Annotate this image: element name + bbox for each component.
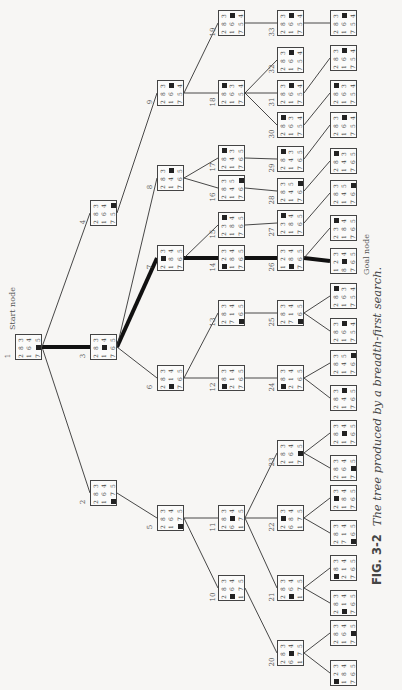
tile: 2 [220, 255, 228, 263]
tile: 3 [279, 82, 287, 90]
tile: 5 [237, 367, 245, 375]
tree-edge [304, 125, 330, 159]
tile: 7 [109, 352, 117, 360]
tile: 3 [279, 12, 287, 20]
tile: 7 [349, 301, 357, 309]
tile: 5 [237, 20, 245, 28]
puzzle-node: 28316754 [277, 10, 304, 36]
tile: 8 [332, 190, 340, 198]
tile: 4 [349, 82, 357, 90]
tile: 1 [167, 263, 175, 271]
tile: 2 [159, 523, 167, 531]
tile: 6 [296, 188, 304, 196]
tile: 7 [349, 678, 357, 686]
blank-tile [349, 182, 357, 190]
tile: 1 [237, 593, 245, 601]
tile: 7 [296, 650, 304, 658]
tile: 4 [287, 212, 295, 220]
tile: 5 [176, 90, 184, 98]
puzzle-node: 23184765 [277, 210, 304, 236]
tile: 7 [340, 538, 348, 546]
puzzle-node: 28316754 [218, 10, 245, 36]
puzzle-node: 28143765 [218, 145, 245, 171]
tile: 3 [279, 367, 287, 375]
blank-tile [228, 515, 236, 523]
tile: 6 [296, 310, 304, 318]
tile: 6 [287, 658, 295, 666]
tile: 4 [228, 247, 236, 255]
tile: 1 [340, 530, 348, 538]
tile: 8 [332, 600, 340, 608]
tile: 1 [228, 193, 236, 201]
node-number-label: 27 [268, 228, 276, 237]
tile: 3 [159, 367, 167, 375]
tile: 6 [340, 293, 348, 301]
tile: 1 [340, 638, 348, 646]
blank-tile [340, 387, 348, 395]
tile: 2 [92, 498, 100, 506]
tile: 7 [296, 28, 304, 36]
tile: 3 [220, 577, 228, 585]
puzzle-node: 23184765 [330, 660, 357, 686]
tile: 5 [349, 217, 357, 225]
node-number-label: 12 [209, 383, 217, 392]
tile: 3 [340, 285, 348, 293]
tile: 2 [279, 593, 287, 601]
node-number-label: 17 [209, 163, 217, 172]
tile: 3 [228, 147, 236, 155]
tile: 1 [287, 375, 295, 383]
blank-tile [340, 430, 348, 438]
tile: 4 [228, 214, 236, 222]
blank-tile [287, 82, 295, 90]
tile: 4 [287, 156, 295, 164]
tile: 8 [220, 310, 228, 318]
tile: 8 [287, 220, 295, 228]
tile: 6 [287, 585, 295, 593]
tile: 4 [340, 217, 348, 225]
tile: 2 [279, 130, 287, 138]
tree-edge [304, 498, 330, 518]
tree-edge [245, 158, 277, 159]
tile: 5 [228, 177, 236, 185]
tile: 8 [332, 55, 340, 63]
tile: 5 [296, 247, 304, 255]
node-number-label: 29 [268, 164, 276, 173]
tile: 7 [296, 65, 304, 73]
tile: 5 [349, 20, 357, 28]
tile: 5 [349, 622, 357, 630]
tile: 4 [167, 367, 175, 375]
tile: 3 [332, 114, 340, 122]
puzzle-node: 83214765 [277, 365, 304, 391]
tile: 2 [220, 193, 228, 201]
tile: 4 [340, 557, 348, 565]
puzzle-node: 28371465 [218, 300, 245, 326]
tile: 3 [220, 302, 228, 310]
tile: 4 [100, 336, 108, 344]
blank-tile [287, 650, 295, 658]
tile: 8 [332, 158, 340, 166]
tile: 4 [287, 442, 295, 450]
tile: 2 [332, 503, 340, 511]
tile: 1 [340, 98, 348, 106]
tile: 6 [296, 156, 304, 164]
tile: 2 [228, 383, 236, 391]
tile: 1 [340, 301, 348, 309]
tile: 6 [349, 258, 357, 266]
tile: 5 [237, 247, 245, 255]
tile: 1 [340, 233, 348, 241]
blank-tile [109, 498, 117, 506]
tile: 6 [287, 20, 295, 28]
tile: 7 [237, 98, 245, 106]
tile: 4 [340, 522, 348, 530]
puzzle-node: 28316475 [330, 455, 357, 481]
puzzle-node: 28314765 [157, 365, 184, 391]
tile: 4 [228, 367, 236, 375]
blank-tile [287, 263, 295, 271]
blank-tile [287, 593, 295, 601]
tile: 8 [332, 360, 340, 368]
tree-edge [304, 568, 330, 588]
puzzle-node: 28314576 [330, 350, 357, 376]
tile: 3 [332, 387, 340, 395]
tile: 4 [228, 577, 236, 585]
tile: 8 [92, 490, 100, 498]
